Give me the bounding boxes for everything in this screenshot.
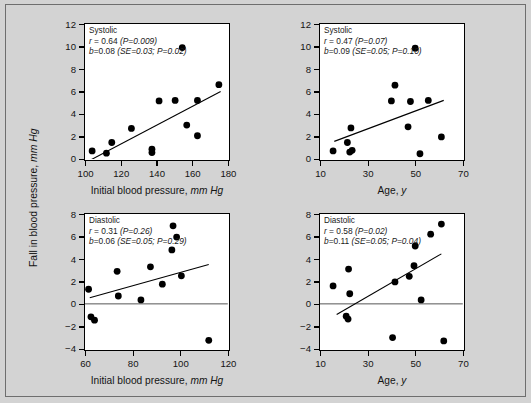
- y-tick-label: 6: [52, 86, 76, 97]
- x-tick-label: 120: [208, 358, 248, 369]
- x-axis-title-text: Age,: [378, 375, 399, 386]
- scatter-canvas: [320, 214, 463, 349]
- y-tick-label: 8: [52, 64, 76, 75]
- y-tick-label: 8: [287, 64, 311, 75]
- x-axis-title: Age, y: [319, 375, 465, 386]
- y-tick-mark: [79, 259, 84, 260]
- y-tick-label: 6: [287, 86, 311, 97]
- y-tick-label: 0: [287, 298, 311, 309]
- x-tick-label: 100: [66, 168, 106, 179]
- y-tick-label: 0: [52, 298, 76, 309]
- y-tick-mark: [79, 159, 84, 160]
- y-tick-label: 2: [287, 276, 311, 287]
- y-tick-label: −2: [52, 321, 76, 332]
- y-tick-mark: [314, 24, 319, 25]
- y-tick-mark: [314, 114, 319, 115]
- x-tick-label: 70: [443, 358, 483, 369]
- y-tick-mark: [79, 214, 84, 215]
- y-tick-label: 6: [52, 231, 76, 242]
- x-tick-label: 120: [101, 168, 141, 179]
- y-tick-label: 4: [287, 254, 311, 265]
- x-tick-mark: [320, 161, 321, 166]
- y-tick-mark: [314, 214, 319, 215]
- x-tick-label: 10: [301, 168, 341, 179]
- x-tick-mark: [133, 351, 134, 356]
- panel-diastolic-vs-age: Diastolic r = 0.58 (P=0.02) b=0.11 (SE=0…: [6, 5, 527, 398]
- y-tick-label: −2: [287, 321, 311, 332]
- y-tick-mark: [314, 69, 319, 70]
- y-tick-label: 0: [52, 153, 76, 164]
- y-tick-label: 2: [52, 276, 76, 287]
- x-tick-label: 140: [137, 168, 177, 179]
- x-tick-label: 50: [396, 358, 436, 369]
- x-tick-mark: [192, 161, 193, 166]
- y-tick-label: 0: [287, 153, 311, 164]
- y-tick-label: 4: [52, 254, 76, 265]
- y-tick-label: 2: [287, 131, 311, 142]
- x-tick-mark: [121, 161, 122, 166]
- x-tick-mark: [228, 351, 229, 356]
- x-axis-title-units: y: [401, 375, 406, 386]
- y-tick-mark: [79, 46, 84, 47]
- y-tick-mark: [314, 236, 319, 237]
- y-tick-label: 10: [287, 41, 311, 52]
- y-tick-mark: [79, 91, 84, 92]
- x-tick-mark: [85, 351, 86, 356]
- y-tick-label: 10: [52, 41, 76, 52]
- x-tick-label: 30: [348, 168, 388, 179]
- figure-frame: Fall in blood pressure, mm Hg Systolic r…: [5, 4, 526, 397]
- x-tick-label: 80: [113, 358, 153, 369]
- x-tick-mark: [368, 351, 369, 356]
- y-tick-mark: [79, 349, 84, 350]
- y-tick-label: 12: [52, 19, 76, 30]
- y-tick-mark: [79, 114, 84, 115]
- x-tick-mark: [368, 161, 369, 166]
- y-tick-label: −4: [287, 343, 311, 354]
- y-tick-label: 8: [52, 209, 76, 220]
- y-tick-label: 6: [287, 231, 311, 242]
- x-tick-label: 60: [66, 358, 106, 369]
- x-tick-label: 70: [443, 168, 483, 179]
- y-tick-mark: [79, 304, 84, 305]
- y-tick-label: 4: [52, 108, 76, 119]
- x-tick-mark: [156, 161, 157, 166]
- x-tick-mark: [463, 161, 464, 166]
- y-tick-mark: [79, 69, 84, 70]
- x-tick-mark: [463, 351, 464, 356]
- y-tick-mark: [314, 46, 319, 47]
- y-tick-mark: [79, 24, 84, 25]
- plot-area[interactable]: [319, 213, 465, 351]
- x-tick-label: 100: [161, 358, 201, 369]
- y-tick-mark: [314, 326, 319, 327]
- y-tick-label: 4: [287, 108, 311, 119]
- x-tick-label: 10: [301, 358, 341, 369]
- y-tick-mark: [79, 136, 84, 137]
- x-tick-mark: [180, 351, 181, 356]
- x-tick-label: 160: [173, 168, 213, 179]
- y-tick-mark: [314, 91, 319, 92]
- y-tick-label: −4: [52, 343, 76, 354]
- y-tick-mark: [314, 349, 319, 350]
- y-tick-label: 8: [287, 209, 311, 220]
- x-tick-label: 50: [396, 168, 436, 179]
- x-tick-mark: [415, 161, 416, 166]
- y-tick-mark: [79, 326, 84, 327]
- y-tick-mark: [314, 259, 319, 260]
- y-tick-mark: [314, 136, 319, 137]
- x-tick-mark: [228, 161, 229, 166]
- x-tick-label: 180: [208, 168, 248, 179]
- y-tick-mark: [314, 281, 319, 282]
- x-tick-mark: [320, 351, 321, 356]
- x-tick-label: 30: [348, 358, 388, 369]
- y-tick-mark: [314, 159, 319, 160]
- y-tick-mark: [79, 236, 84, 237]
- y-tick-mark: [314, 304, 319, 305]
- y-tick-label: 2: [52, 131, 76, 142]
- y-tick-mark: [79, 281, 84, 282]
- figure-root: Fall in blood pressure, mm Hg Systolic r…: [0, 0, 531, 403]
- y-tick-label: 12: [287, 19, 311, 30]
- x-tick-mark: [415, 351, 416, 356]
- x-tick-mark: [85, 161, 86, 166]
